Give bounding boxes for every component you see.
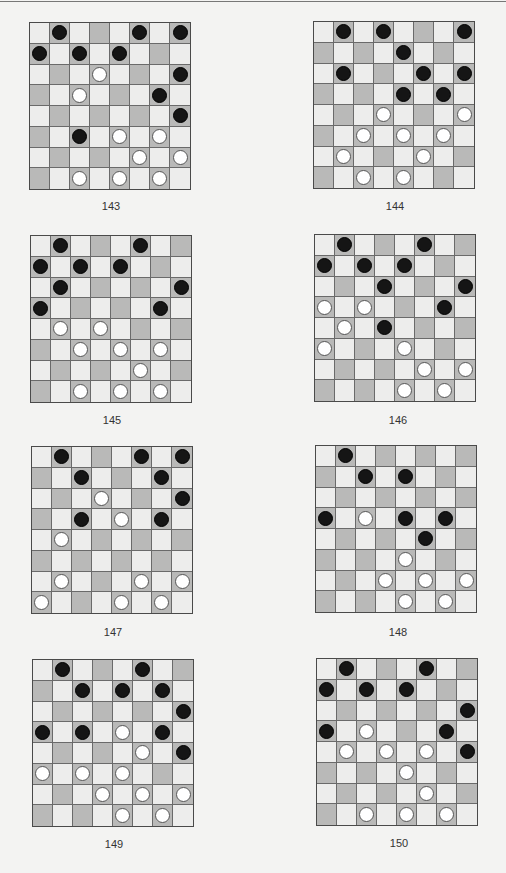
white-checker-icon bbox=[135, 745, 150, 760]
light-square bbox=[112, 572, 132, 593]
white-checker-icon bbox=[458, 362, 473, 377]
dark-square bbox=[53, 660, 73, 681]
black-checker-icon bbox=[318, 511, 333, 526]
dark-square bbox=[334, 22, 354, 43]
light-square bbox=[133, 764, 153, 785]
black-checker-icon bbox=[457, 24, 472, 39]
light-square bbox=[33, 660, 53, 681]
white-checker-icon bbox=[112, 171, 127, 186]
light-square bbox=[414, 43, 434, 64]
light-square bbox=[152, 489, 172, 510]
light-square bbox=[32, 572, 52, 593]
black-checker-icon bbox=[418, 531, 433, 546]
light-square bbox=[91, 298, 111, 319]
black-checker-icon bbox=[175, 491, 190, 506]
white-checker-icon bbox=[359, 724, 374, 739]
dark-square bbox=[355, 297, 375, 318]
white-checker-icon bbox=[54, 532, 69, 547]
light-square bbox=[456, 550, 476, 571]
light-square bbox=[454, 167, 474, 188]
dark-square bbox=[51, 361, 71, 382]
dark-square bbox=[52, 489, 72, 510]
light-square bbox=[111, 319, 131, 340]
white-checker-icon bbox=[378, 573, 393, 588]
dark-square bbox=[356, 591, 376, 612]
dark-square bbox=[355, 380, 375, 401]
light-square bbox=[434, 22, 454, 43]
light-square bbox=[376, 467, 396, 488]
dark-square bbox=[315, 297, 335, 318]
dark-square bbox=[91, 236, 111, 257]
dark-square bbox=[336, 529, 356, 550]
light-square bbox=[374, 126, 394, 147]
black-checker-icon bbox=[132, 25, 147, 40]
light-square bbox=[170, 168, 190, 189]
light-square bbox=[153, 660, 173, 681]
light-square bbox=[91, 257, 111, 278]
light-square bbox=[111, 278, 131, 299]
white-checker-icon bbox=[114, 512, 129, 527]
dark-square bbox=[33, 764, 53, 785]
white-checker-icon bbox=[73, 384, 88, 399]
light-square bbox=[375, 256, 395, 277]
dark-square bbox=[91, 361, 111, 382]
light-square bbox=[336, 467, 356, 488]
light-square bbox=[131, 257, 151, 278]
light-square bbox=[70, 65, 90, 86]
dark-square bbox=[375, 277, 395, 298]
dark-square bbox=[93, 785, 113, 806]
white-checker-icon bbox=[459, 573, 474, 588]
dark-square bbox=[30, 168, 50, 189]
dark-square bbox=[337, 701, 357, 722]
light-square bbox=[356, 446, 376, 467]
light-square bbox=[51, 381, 71, 402]
black-checker-icon bbox=[55, 662, 70, 677]
dark-square bbox=[337, 659, 357, 680]
light-square bbox=[131, 340, 151, 361]
light-square bbox=[173, 764, 193, 785]
white-checker-icon bbox=[176, 787, 191, 802]
light-square bbox=[414, 84, 434, 105]
white-checker-icon bbox=[437, 383, 452, 398]
light-square bbox=[110, 23, 130, 44]
dark-square bbox=[93, 660, 113, 681]
light-square bbox=[315, 318, 335, 339]
light-square bbox=[132, 468, 152, 489]
dark-square bbox=[434, 43, 454, 64]
dark-square bbox=[396, 550, 416, 571]
dark-square bbox=[153, 764, 173, 785]
light-square bbox=[376, 508, 396, 529]
white-checker-icon bbox=[417, 362, 432, 377]
dark-square bbox=[336, 488, 356, 509]
puzzle-number: 148 bbox=[368, 626, 428, 638]
dark-square bbox=[457, 742, 477, 763]
light-square bbox=[416, 550, 436, 571]
black-checker-icon bbox=[54, 449, 69, 464]
dark-square bbox=[152, 592, 172, 613]
light-square bbox=[436, 446, 456, 467]
white-checker-icon bbox=[112, 129, 127, 144]
black-checker-icon bbox=[398, 511, 413, 526]
dark-square bbox=[416, 571, 436, 592]
dark-square bbox=[335, 318, 355, 339]
dark-square bbox=[131, 361, 151, 382]
black-checker-icon bbox=[398, 469, 413, 484]
black-checker-icon bbox=[174, 280, 189, 295]
dark-square bbox=[171, 278, 191, 299]
light-square bbox=[454, 43, 474, 64]
black-checker-icon bbox=[53, 238, 68, 253]
light-square bbox=[110, 65, 130, 86]
dark-square bbox=[70, 85, 90, 106]
dark-square bbox=[92, 572, 112, 593]
light-square bbox=[317, 659, 337, 680]
dark-square bbox=[111, 257, 131, 278]
puzzle-number: 145 bbox=[82, 414, 142, 426]
light-square bbox=[417, 721, 437, 742]
dark-square bbox=[30, 44, 50, 65]
light-square bbox=[437, 659, 457, 680]
light-square bbox=[397, 784, 417, 805]
dark-square bbox=[50, 148, 70, 169]
light-square bbox=[417, 763, 437, 784]
white-checker-icon bbox=[34, 595, 49, 610]
dark-square bbox=[170, 23, 190, 44]
